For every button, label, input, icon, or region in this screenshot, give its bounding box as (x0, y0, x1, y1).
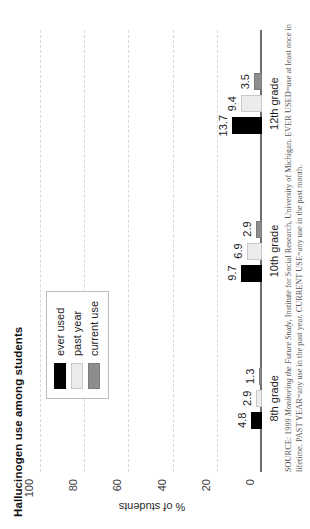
bar-value-label: 6.9 (232, 243, 244, 258)
bar-value-label: 4.8 (236, 413, 248, 428)
bar[interactable]: 2.9 (256, 390, 262, 407)
bar[interactable]: 2.9 (256, 221, 262, 238)
legend-swatch (88, 363, 100, 389)
source-lead: SOURCE: (284, 437, 293, 472)
bar[interactable]: 3.5 (254, 73, 262, 90)
bar[interactable]: 9.7 (241, 265, 262, 282)
source-study-title: Monitoring the Future Study (284, 321, 293, 416)
legend-item-label: ever used (54, 308, 66, 356)
legend-item[interactable]: ever used (54, 301, 66, 389)
legend-swatch (71, 363, 83, 389)
bar[interactable]: 6.9 (247, 243, 262, 260)
x-axis-group-label: 12th grade (268, 77, 280, 130)
bar-value-label: 13.7 (217, 115, 229, 136)
bar-value-label: 2.9 (241, 391, 253, 406)
bar-value-label: 1.3 (244, 369, 256, 384)
bar[interactable]: 1.3 (259, 368, 262, 385)
bar[interactable]: 13.7 (232, 117, 262, 134)
y-axis-title-label: % of students (118, 501, 185, 513)
bar-group: 13.79.43.512th grade (41, 30, 262, 177)
legend-swatch (54, 363, 66, 389)
bar[interactable]: 4.8 (251, 412, 262, 429)
plot-area: 100806040200 4.82.91.38th grade9.76.92.9… (41, 30, 262, 472)
y-axis-tick-label: 80 (67, 479, 79, 491)
bar[interactable]: 9.4 (241, 95, 262, 112)
legend-item-label: current use (88, 301, 100, 356)
y-axis-tick-label: 20 (200, 479, 212, 491)
source-text-1: 1999 (284, 416, 293, 437)
bar-value-label: 2.9 (241, 221, 253, 236)
y-axis-tick-label: 60 (111, 479, 123, 491)
legend: ever usedpast yearcurrent use (46, 291, 109, 399)
y-axis-tick-label: 100 (23, 479, 35, 497)
y-axis-title: % of students (41, 499, 262, 515)
legend-item[interactable]: current use (88, 301, 100, 389)
chart-figure: Hallucinogen use among students % of stu… (0, 0, 310, 529)
x-axis-group-label: 8th grade (268, 375, 280, 421)
bar-value-label: 9.7 (226, 265, 238, 280)
x-axis-group-label: 10th grade (268, 225, 280, 278)
rotated-figure-stage: Hallucinogen use among students % of stu… (0, 0, 310, 529)
legend-item[interactable]: past year (71, 301, 83, 389)
bar-value-label: 9.4 (226, 96, 238, 111)
bar-value-label: 3.5 (239, 74, 251, 89)
y-axis-tick-label: 40 (156, 479, 168, 491)
source-note: SOURCE: 1999 Monitoring the Future Study… (283, 20, 305, 472)
y-axis-tick-label: 0 (244, 479, 256, 485)
legend-item-label: past year (71, 311, 83, 356)
